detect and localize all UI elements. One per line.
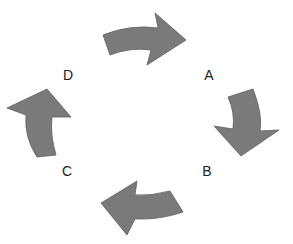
arrows-layer [0, 0, 293, 244]
node-label-b: B [200, 164, 214, 178]
node-label-c: C [60, 164, 74, 178]
arrow-c-to-d-icon [7, 89, 71, 157]
arrow-d-to-a-icon [103, 13, 186, 65]
arrow-b-to-c-icon [101, 181, 183, 235]
node-label-a: A [202, 68, 216, 82]
arrow-a-to-b-icon [214, 89, 279, 156]
node-label-d: D [61, 68, 75, 82]
cycle-diagram: D A C B [0, 0, 293, 244]
